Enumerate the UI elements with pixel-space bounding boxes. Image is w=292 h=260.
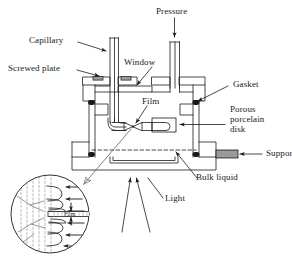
film-holder-left (112, 123, 133, 131)
label-porous-disk-line1: Porous (230, 104, 256, 114)
light-leader (148, 178, 163, 198)
gasket-dot-top-left (88, 100, 95, 105)
screwed-plate-bolt-left (93, 77, 103, 81)
label-film: Film (142, 96, 159, 106)
screwed-plate-leader (77, 70, 99, 76)
capillary-tube (110, 38, 119, 122)
screwed-plate-bolt-right (121, 77, 131, 81)
label-light: Light (165, 193, 185, 203)
capillary-leader (78, 42, 106, 51)
film-holder-right (133, 123, 152, 131)
figure-container: Pressure Capillary Screwed plate Window … (0, 0, 292, 260)
label-porous-disk-line3: disk (230, 124, 245, 134)
inset-detail (11, 175, 92, 253)
label-window: Window (124, 57, 155, 67)
label-pressure: Pressure (156, 6, 187, 16)
film-leader (136, 106, 147, 123)
label-bulk-liquid: Bulk liquid (196, 172, 238, 182)
gasket-leader (198, 86, 228, 101)
porous-porcelain-disk (152, 118, 176, 132)
label-support: Support (266, 148, 292, 158)
pressure-tube (170, 42, 180, 88)
gasket-dot-bottom-right (193, 152, 200, 157)
film-point (132, 125, 134, 127)
label-inset-film: Film (64, 209, 75, 219)
label-screwed-plate: Screwed plate (8, 63, 60, 73)
gasket-dot-bottom-left (88, 152, 95, 157)
capillary-bend (108, 118, 126, 131)
label-capillary: Capillary (29, 35, 63, 45)
top-plate-right (152, 77, 205, 85)
label-gasket: Gasket (233, 79, 259, 89)
label-porous-disk-line2: porcelain (230, 114, 264, 124)
light-rays (122, 178, 150, 232)
window-leader (137, 67, 152, 85)
support-block (216, 150, 238, 158)
cell-body-walls (89, 101, 199, 157)
